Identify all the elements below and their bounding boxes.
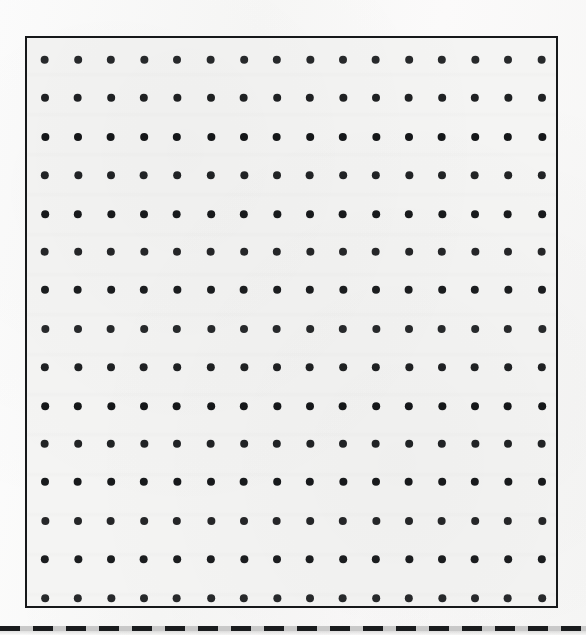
grid-dot <box>74 56 82 64</box>
grid-dot <box>405 402 413 410</box>
grid-dot <box>305 555 313 563</box>
grid-dot <box>306 286 314 294</box>
grid-dot <box>273 210 281 218</box>
grid-dot <box>207 478 215 486</box>
grid-dot <box>41 56 49 64</box>
grid-dot <box>240 555 248 563</box>
grid-dot <box>471 325 479 333</box>
grid-dot <box>305 171 313 179</box>
grid-dot <box>74 210 82 218</box>
grid-dot <box>472 440 480 448</box>
grid-dot <box>372 56 380 64</box>
grid-dot <box>504 133 512 141</box>
grid-dot <box>504 440 512 448</box>
grid-dot <box>471 478 479 486</box>
grid-dot <box>239 478 247 486</box>
grid-dot <box>504 325 512 333</box>
grid-dot <box>505 94 513 102</box>
grid-dot <box>504 56 512 64</box>
grid-dot <box>405 248 413 256</box>
grid-dot <box>240 440 248 448</box>
grid-dot <box>372 517 380 525</box>
grid-dot <box>339 286 347 294</box>
grid-dot <box>206 555 214 563</box>
grid-dot <box>339 248 347 256</box>
grid-dot <box>306 210 314 218</box>
grid-dot <box>74 94 82 102</box>
grid-dot <box>74 402 82 410</box>
grid-dot <box>140 517 148 525</box>
grid-dot <box>538 594 546 602</box>
grid-dot <box>41 133 49 141</box>
grid-dot <box>306 133 314 141</box>
grid-dot <box>471 94 479 102</box>
grid-dot <box>173 210 181 218</box>
grid-dot <box>372 402 380 410</box>
grid-dot <box>339 94 347 102</box>
grid-dot <box>206 363 214 371</box>
grid-dot <box>306 402 314 410</box>
grid-dot <box>339 171 347 179</box>
grid-dot <box>339 440 347 448</box>
grid-dot <box>505 478 513 486</box>
grid-dot <box>405 594 413 602</box>
grid-dot <box>41 248 49 256</box>
grid-dot <box>239 402 247 410</box>
grid-dot <box>438 133 446 141</box>
grid-dot <box>74 325 82 333</box>
grid-dot <box>207 517 215 525</box>
grid-dot <box>107 56 115 64</box>
grid-dot <box>538 94 546 102</box>
grid-dot <box>405 363 413 371</box>
grid-dot <box>438 94 446 102</box>
frame-region-label: printed-border-rectangle <box>0 0 1 1</box>
grid-dot <box>372 325 380 333</box>
grid-frame <box>25 36 558 608</box>
grid-dot <box>174 478 182 486</box>
grid-dot <box>273 363 281 371</box>
grid-dot <box>74 363 82 371</box>
grid-dot <box>207 94 215 102</box>
grid-dot <box>174 171 182 179</box>
grid-dot <box>472 248 480 256</box>
grid-dot <box>74 594 82 602</box>
grid-dot <box>471 171 479 179</box>
grid-dot <box>273 248 281 256</box>
grid-dot <box>207 286 215 294</box>
grid-dot <box>41 440 49 448</box>
grid-dot <box>372 210 380 218</box>
grid-dot <box>438 478 446 486</box>
grid-dot <box>405 440 413 448</box>
grid-dot <box>471 363 479 371</box>
grid-dot <box>207 210 215 218</box>
grid-dot <box>537 555 545 563</box>
grid-dot <box>405 133 413 141</box>
grid-dot <box>372 440 380 448</box>
grid-dot <box>41 286 49 294</box>
grid-dot <box>372 478 380 486</box>
grid-dot <box>41 94 49 102</box>
grid-dot <box>537 440 545 448</box>
grid-dot <box>438 248 446 256</box>
grid-dot <box>140 402 148 410</box>
grid-dot <box>207 133 215 141</box>
grid-dot <box>306 440 314 448</box>
grid-dot <box>140 478 148 486</box>
grid-dot <box>107 133 115 141</box>
grid-dot <box>273 478 281 486</box>
grid-dot <box>372 133 380 141</box>
grid-dot <box>140 171 148 179</box>
grid-dot <box>74 286 82 294</box>
grid-dot <box>206 56 214 64</box>
grid-dot <box>438 440 446 448</box>
grid-dot <box>41 402 49 410</box>
grid-dot <box>107 555 115 563</box>
grid-dot <box>538 286 546 294</box>
grid-dot <box>438 363 446 371</box>
grid-dot <box>439 210 447 218</box>
grid-dot <box>438 517 446 525</box>
grid-dot <box>74 248 82 256</box>
grid-dot <box>306 325 314 333</box>
grid-dot <box>339 56 347 64</box>
grid-dot <box>173 325 181 333</box>
